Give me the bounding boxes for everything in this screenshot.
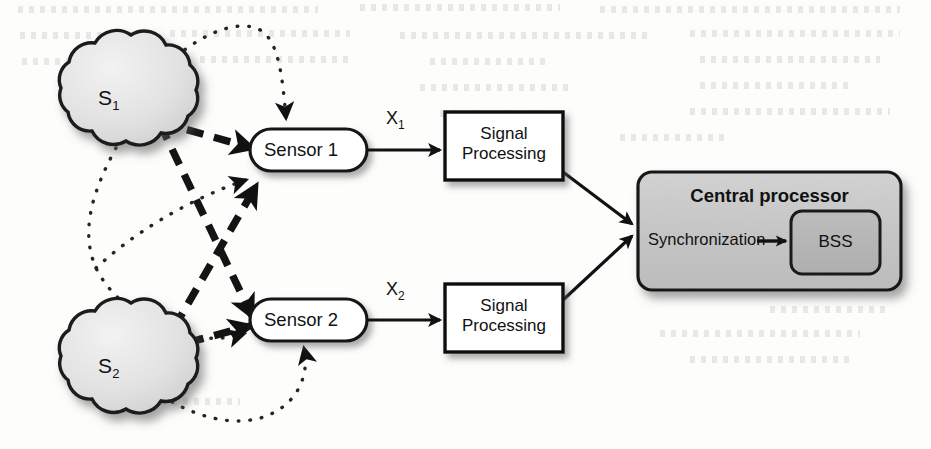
sensor-2-label: Sensor 2 <box>264 309 338 331</box>
signal-processing-label-1: Signal Processing <box>445 124 563 164</box>
source-cloud-s1[interactable] <box>59 30 198 145</box>
source-label-s1: S1 <box>98 86 120 113</box>
source-label-s2: S2 <box>98 354 120 381</box>
figure-canvas: S1 S2 Sensor 1 Sensor 2 Signal Processin… <box>0 0 931 449</box>
connector-sp2-cp <box>563 236 632 300</box>
source-cloud-s2[interactable] <box>59 298 198 413</box>
signal-processing-label-2: Signal Processing <box>445 296 563 336</box>
diagram-svg <box>0 0 931 449</box>
bss-label: BSS <box>791 232 880 252</box>
synchronization-label: Synchronization <box>648 230 765 249</box>
central-processor-title: Central processor <box>638 185 901 207</box>
signal-label-x2: X2 <box>386 279 405 303</box>
sensor-1-label: Sensor 1 <box>264 139 338 161</box>
connector-sp1-cp <box>563 172 632 224</box>
signal-label-x1: X1 <box>386 108 405 132</box>
